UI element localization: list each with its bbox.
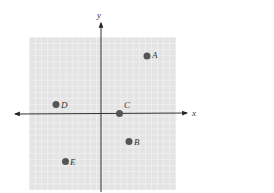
point-e (62, 158, 69, 165)
point-c-label: C (124, 100, 131, 110)
point-c (116, 110, 123, 117)
point-a-label: A (151, 50, 158, 60)
x-axis-label: x (191, 108, 196, 118)
point-a (144, 53, 151, 60)
point-d (53, 101, 60, 108)
coordinate-plane: x y A C D B E (0, 0, 274, 193)
point-b (126, 138, 133, 145)
point-b-label: B (134, 137, 140, 147)
point-e-label: E (69, 157, 76, 167)
point-d-label: D (60, 100, 68, 110)
y-axis-label: y (96, 10, 101, 20)
